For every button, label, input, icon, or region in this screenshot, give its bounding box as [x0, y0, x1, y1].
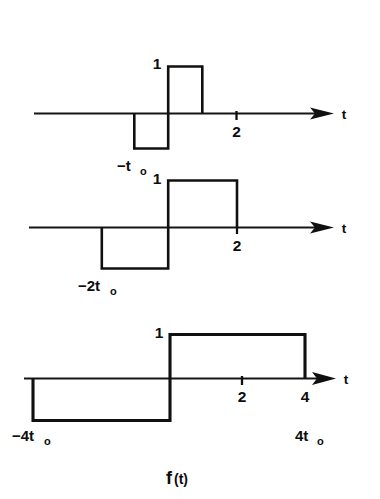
figure-canvas: t 2 1 −t o t 2 1 −2t o: [0, 0, 380, 499]
plot-3-waveform: [33, 335, 305, 421]
plot-3-left-edge-label-sub: o: [44, 435, 51, 447]
plot-2: t 2 1 −2t o: [29, 170, 347, 297]
plot-3-axis-label: t: [344, 372, 349, 387]
plot-1-left-edge-label-sub: o: [140, 165, 147, 177]
plot-2-left-edge-label-main: −2t: [78, 277, 100, 294]
plot-3-left-edge-label: −4t o: [12, 427, 51, 447]
plot-2-tick-label-2: 2: [233, 237, 242, 254]
plot-1-left-edge-label: −t o: [117, 157, 147, 177]
plot-2-axis-label: t: [342, 221, 347, 236]
plot-1-tick-label-2: 2: [232, 123, 241, 140]
plot-3: t 2 4 1 −4t o 4t o: [12, 324, 349, 447]
plot-2-waveform: [102, 181, 237, 269]
plot-1-amplitude-label: 1: [153, 55, 162, 72]
plot-2-left-edge-label: −2t o: [78, 277, 117, 297]
waveform-figure: t 2 1 −t o t 2 1 −2t o: [0, 0, 380, 499]
plot-3-right-edge-label-main: 4t: [295, 427, 308, 444]
plot-1-axis-label: t: [342, 107, 347, 122]
plot-3-tick-label-2: 2: [238, 388, 247, 405]
plot-1-left-edge-label-main: −t: [117, 157, 131, 174]
plot-1: t 2 1 −t o: [34, 55, 347, 177]
figure-caption-fn: f: [166, 468, 173, 488]
plot-3-right-edge-label: 4t o: [295, 427, 324, 447]
plot-1-waveform: [134, 67, 202, 149]
plot-3-right-edge-label-sub: o: [317, 435, 324, 447]
plot-3-left-edge-label-main: −4t: [12, 427, 34, 444]
plot-3-amplitude-label: 1: [155, 324, 164, 341]
plot-2-left-edge-label-sub: o: [110, 285, 117, 297]
figure-caption-arg: (t): [174, 471, 188, 487]
plot-3-tick-label-4: 4: [301, 388, 310, 405]
plot-2-amplitude-label: 1: [153, 170, 162, 187]
figure-caption: f (t): [166, 468, 188, 488]
